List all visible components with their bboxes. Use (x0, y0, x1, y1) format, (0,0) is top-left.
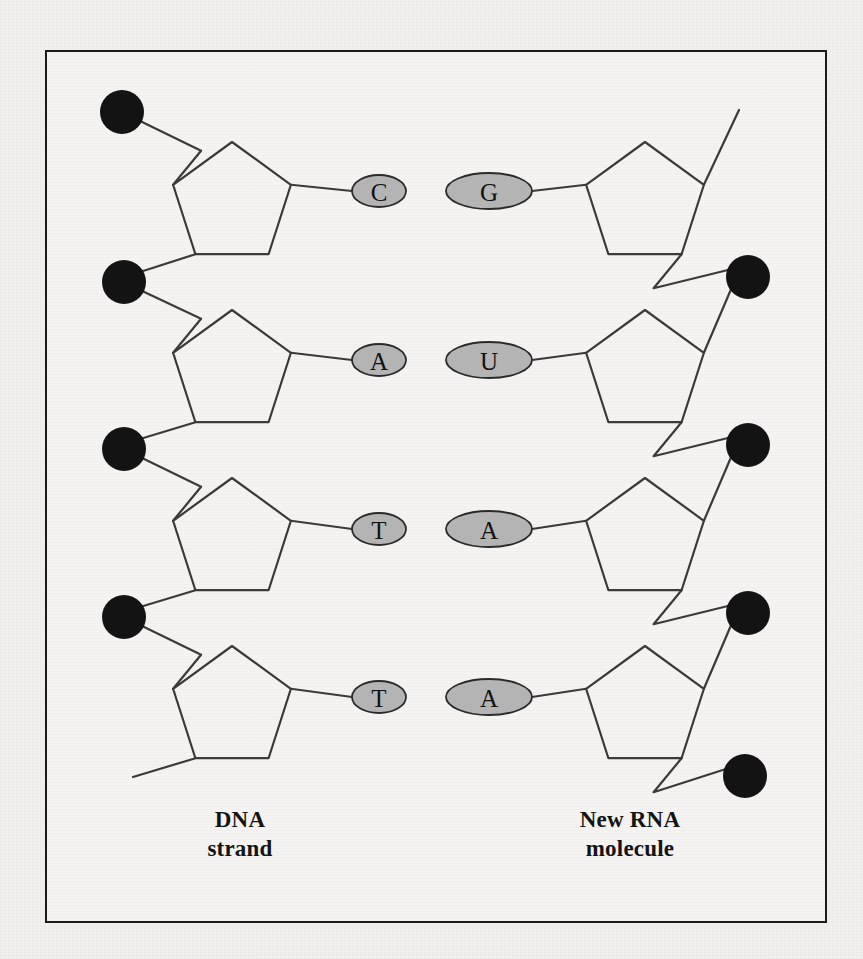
backbone-lower-right-3 (654, 590, 732, 624)
dna-strand-label-line2: strand (150, 834, 330, 863)
backbone-lower-right-2 (654, 422, 732, 456)
phosphate-right-2 (726, 423, 770, 467)
base-letter-left-2: A (370, 348, 388, 375)
rna-molecule-label-line1: New RNA (530, 805, 730, 834)
base-bond-left-3 (291, 521, 352, 529)
backbone-lower-left-1 (140, 254, 195, 272)
base-bond-right-2 (532, 353, 586, 360)
phosphate-left-1 (100, 90, 144, 134)
base-letter-right-3: A (480, 517, 498, 544)
base-bond-left-1 (291, 185, 352, 191)
base-bond-right-3 (532, 521, 586, 529)
base-bond-right-4 (532, 689, 586, 697)
base-letter-left-3: T (371, 517, 386, 544)
backbone-lower-right-4 (654, 758, 729, 792)
sugar-ring-left-3 (173, 478, 291, 590)
phosphate-right-3 (726, 591, 770, 635)
dna-strand-label-line1: DNA (150, 805, 330, 834)
backbone-upper-right-3 (704, 455, 732, 521)
phosphate-right-4 (723, 754, 767, 798)
phosphate-right-1 (726, 255, 770, 299)
sugar-ring-right-3 (586, 478, 704, 590)
backbone-upper-left-2 (140, 290, 201, 353)
base-ellipses-group: CATTGUAA (352, 173, 532, 715)
backbone-lower-left-2 (140, 422, 195, 439)
rna-molecule-label-line2: molecule (530, 834, 730, 863)
sugar-ring-right-4 (586, 646, 704, 758)
sugar-ring-left-4 (173, 646, 291, 758)
base-letter-right-4: A (480, 685, 498, 712)
backbone-free-end-right (704, 110, 739, 185)
base-letter-right-1: G (480, 179, 498, 206)
backbone-upper-right-2 (704, 287, 732, 353)
phosphate-left-2 (102, 260, 146, 304)
sugar-ring-right-1 (586, 142, 704, 254)
sugar-ring-left-1 (173, 142, 291, 254)
sugar-ring-right-2 (586, 310, 704, 422)
base-bond-left-4 (291, 689, 352, 697)
base-bond-left-2 (291, 353, 352, 360)
dna-strand-label: DNA strand (150, 805, 330, 863)
phosphate-left-4 (102, 595, 146, 639)
base-letter-left-4: T (371, 685, 386, 712)
diagram-canvas: CATTGUAA (0, 0, 863, 959)
backbone-upper-left-4 (140, 625, 201, 689)
base-bond-right-1 (532, 185, 586, 191)
rna-molecule-label: New RNA molecule (530, 805, 730, 863)
sugar-ring-left-2 (173, 310, 291, 422)
backbone-lower-left-3 (140, 590, 195, 607)
backbone-upper-left-3 (140, 457, 201, 521)
backbone-upper-right-4 (704, 623, 732, 689)
bond-lines-group (133, 110, 739, 792)
backbone-upper-left-1 (138, 120, 201, 185)
base-letter-left-1: C (371, 179, 388, 206)
base-letter-right-2: U (480, 348, 498, 375)
phosphate-left-3 (102, 427, 146, 471)
backbone-free-end-left (133, 758, 195, 777)
backbone-lower-right-1 (654, 254, 732, 288)
sugar-rings-group (173, 142, 704, 758)
phosphate-circles-group (100, 90, 770, 798)
